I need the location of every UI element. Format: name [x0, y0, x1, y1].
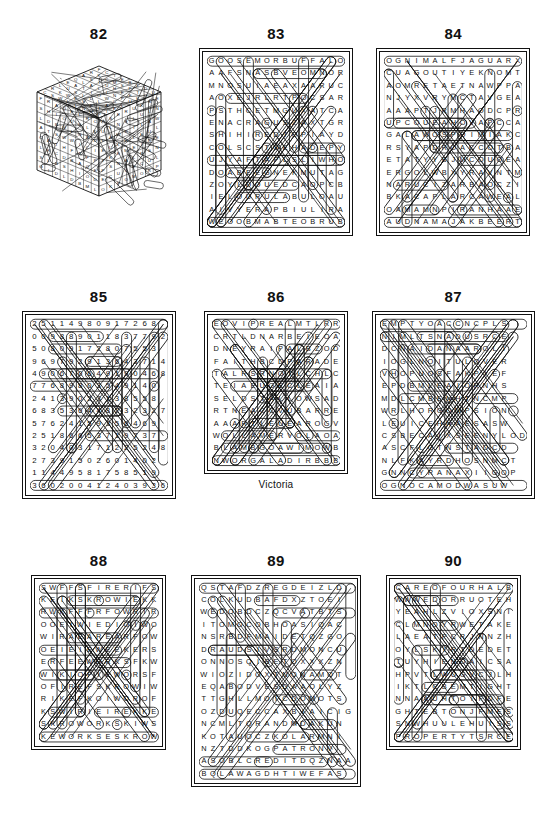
- grid-cell: [508, 393, 517, 405]
- grid-cell: C: [467, 154, 476, 166]
- grid-cell: U: [335, 644, 344, 656]
- puzzle-grid[interactable]: OGNIMALFJAGUARXCUAGOUTIYEKNOMTAOMRETAETN…: [384, 55, 522, 229]
- grid-cell: T: [508, 455, 517, 467]
- grid-cell: C: [476, 669, 485, 681]
- grid-cell: P: [463, 405, 472, 417]
- grid-cell: Z: [317, 582, 326, 594]
- puzzle-grid[interactable]: 2511498091726800988901183779250809172807…: [30, 318, 168, 492]
- grid-row: NZTDDKOGPATRONV: [199, 743, 352, 755]
- grid-cell: D: [380, 343, 389, 355]
- grid-cell: M: [239, 442, 248, 454]
- grid-cell: D: [262, 768, 271, 780]
- puzzle-grid[interactable]: EOVIPREALMTLRRCRTLDNARBEIEOADNEYRAIPALBZ…: [212, 318, 341, 467]
- grid-cell: O: [485, 179, 494, 191]
- grid-cell: U: [327, 80, 336, 92]
- grid-cell: F: [149, 693, 158, 705]
- grid-cell: S: [317, 92, 326, 104]
- grid-cell: I: [430, 656, 439, 668]
- grid-cell: Y: [235, 204, 244, 216]
- grid-cell: U: [258, 380, 267, 392]
- grid-cell: R: [76, 731, 85, 743]
- grid-cell: B: [426, 393, 435, 405]
- puzzle-grid[interactable]: SWFFSFIRERIFSKEIKSKROWIEKKRWKFFFRFOWRIRO…: [39, 582, 158, 743]
- grid-cell: S: [112, 718, 121, 730]
- grid-cell: E: [216, 191, 225, 203]
- grid-cell: C: [495, 105, 504, 117]
- grid-cell: W: [499, 418, 508, 430]
- svg-text:U: U: [105, 83, 108, 88]
- grid-cell: [508, 356, 517, 368]
- grid-cell: I: [513, 179, 522, 191]
- cube-puzzle[interactable]: FFKRSUALLQAEECILLPRSECGOCRSKHLSDALTUAAKU…: [24, 48, 174, 213]
- grid-row: COLSCSTOEHADEPY: [207, 142, 345, 154]
- grid-cell: 1: [76, 418, 85, 430]
- grid-cell: E: [504, 92, 513, 104]
- puzzle-grid[interactable]: QSTAFDZREGDEIZLDCOLKUDBAFDXZTOEIWEDOBDCZ…: [199, 582, 352, 781]
- grid-cell: O: [476, 594, 485, 606]
- grid-cell: O: [495, 67, 504, 79]
- grid-cell: G: [248, 455, 257, 467]
- grid-row: CRTLDNARBEIEOA: [212, 331, 341, 343]
- grid-cell: W: [394, 594, 403, 606]
- grid-row: PROPERTYTSRCE: [394, 731, 513, 743]
- grid-cell: Z: [504, 179, 513, 191]
- grid-cell: U: [403, 656, 412, 668]
- grid-cell: H: [421, 718, 430, 730]
- grid-cell: S: [149, 582, 158, 594]
- grid-cell: I: [239, 318, 248, 330]
- grid-row: NIMLTSNADUSRCE: [380, 331, 527, 343]
- grid-cell: E: [430, 117, 439, 129]
- grid-cell: T: [235, 718, 244, 730]
- grid-cell: [508, 331, 517, 343]
- grid-cell: Y: [458, 67, 467, 79]
- grid-cell: R: [304, 455, 313, 467]
- grid-row: SNWHUULEHUISS: [394, 718, 513, 730]
- grid-cell: T: [221, 405, 230, 417]
- grid-cell: O: [407, 480, 416, 492]
- grid-row: COLKUDBAFDXZTOEI: [199, 594, 352, 606]
- grid-cell: B: [248, 442, 257, 454]
- grid-cell: 9: [103, 318, 112, 330]
- grid-cell: 2: [76, 356, 85, 368]
- grid-row: GALAWOSPOIMIAKC: [384, 129, 522, 141]
- puzzle-grid[interactable]: EMPTYOACCNCPLSNIMLTSNADUSRCEDCNAIDANAARO…: [380, 318, 527, 492]
- grid-cell: V: [289, 606, 298, 618]
- grid-cell: M: [412, 619, 421, 631]
- grid-cell: 9: [94, 418, 103, 430]
- grid-cell: Q: [308, 631, 317, 643]
- grid-cell: 3: [94, 430, 103, 442]
- grid-cell: 2: [57, 480, 66, 492]
- grid-cell: R: [131, 606, 140, 618]
- grid-cell: S: [76, 582, 85, 594]
- grid-cell: L: [440, 191, 449, 203]
- grid-cell: R: [458, 631, 467, 643]
- grid-cell: K: [112, 656, 121, 668]
- grid-cell: B: [313, 455, 322, 467]
- grid-cell: 8: [149, 318, 158, 330]
- grid-cell: K: [131, 706, 140, 718]
- grid-row: MDLCMBENHTNCMP: [380, 393, 527, 405]
- grid-cell: G: [217, 693, 226, 705]
- grid-cell: W: [317, 154, 326, 166]
- grid-cell: O: [225, 55, 234, 67]
- grid-cell: Y: [440, 92, 449, 104]
- grid-cell: R: [327, 204, 336, 216]
- grid-cell: [344, 644, 353, 656]
- grid-cell: A: [403, 154, 412, 166]
- grid-cell: E: [112, 644, 121, 656]
- grid-cell: R: [239, 368, 248, 380]
- grid-cell: 9: [57, 455, 66, 467]
- grid-cell: G: [412, 67, 421, 79]
- grid-cell: T: [308, 594, 317, 606]
- grid-cell: 4: [85, 480, 94, 492]
- grid-cell: I: [335, 594, 344, 606]
- grid-cell: C: [495, 117, 504, 129]
- grid-cell: I: [267, 343, 276, 355]
- grid-cell: T: [504, 167, 513, 179]
- grid-cell: I: [485, 718, 494, 730]
- grid-cell: E: [513, 204, 522, 216]
- grid-cell: P: [271, 743, 280, 755]
- puzzle-grid[interactable]: GOOSEMORBUFFALOAAFSNASBVEOMNORMNOSUIAEAX…: [207, 55, 345, 229]
- grid-cell: A: [453, 418, 462, 430]
- puzzle-grid[interactable]: CAREOFOURHALBWWWEDORRUOTEHYEAHLZVIOXSNIC…: [394, 582, 513, 743]
